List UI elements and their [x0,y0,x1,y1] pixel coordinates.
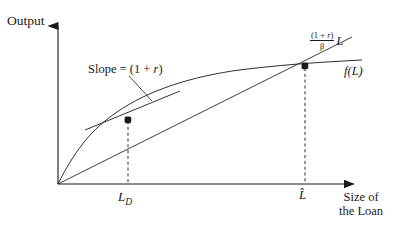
intersection-point-marker [302,63,309,70]
x-tick-label-lhat: L̂ [299,188,306,203]
tick-ld-sub: D [125,197,132,207]
ray-fraction: (1 + r)β [310,31,334,51]
slope-annotation: Slope = (1 + r) [88,62,163,76]
ray-fraction-denominator: β [310,41,334,50]
x-axis-title-line1: Size of [344,190,379,204]
x-axis-title: Size ofthe Loan [339,190,383,219]
economics-figure: Output Size ofthe Loan LD L̂ Slope = (1 … [0,0,396,229]
x-axis-title-line2: the Loan [339,204,383,218]
ray-multiplier-label: L [336,33,343,48]
x-tick-label-ld: LD [118,190,132,207]
tangency-point-marker [125,117,132,124]
y-axis-title: Output [7,13,45,28]
ray-num-prefix: (1 + [311,30,327,40]
tangent-line-segment [85,91,180,130]
slope-suffix: ) [158,62,162,76]
ray-fraction-numerator: (1 + r) [310,31,334,41]
ray-slope-line [58,37,352,184]
slope-prefix: Slope = (1 + [88,62,154,76]
ray-slope-annotation: (1 + r)βL [310,31,344,51]
slope-leader-line [129,76,152,101]
ray-num-suffix: ) [330,30,333,40]
production-function-label: f(L) [344,64,363,78]
